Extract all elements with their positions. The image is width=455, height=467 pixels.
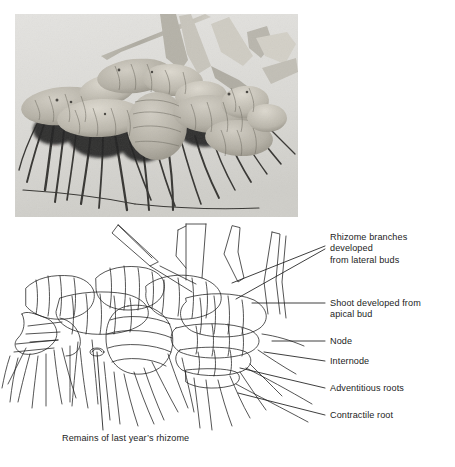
label-node: Node: [330, 336, 352, 347]
label-internode: Internode: [330, 356, 369, 367]
label-rhizome-branches: Rhizome branches developed from lateral …: [330, 232, 407, 266]
botanical-figure: Rhizome branches developed from lateral …: [0, 0, 455, 467]
rhizome-photograph: [15, 14, 298, 217]
label-adventitious-roots: Adventitious roots: [330, 383, 404, 394]
label-shoot-apical-bud: Shoot developed from apical bud: [330, 298, 421, 321]
label-contractile-root: Contractile root: [330, 410, 393, 421]
figure-footer-text: [2, 455, 302, 465]
label-remains-last-years-rhizome: Remains of last year’s rhizome: [62, 433, 189, 444]
rhizome-line-drawing: [0, 222, 330, 437]
